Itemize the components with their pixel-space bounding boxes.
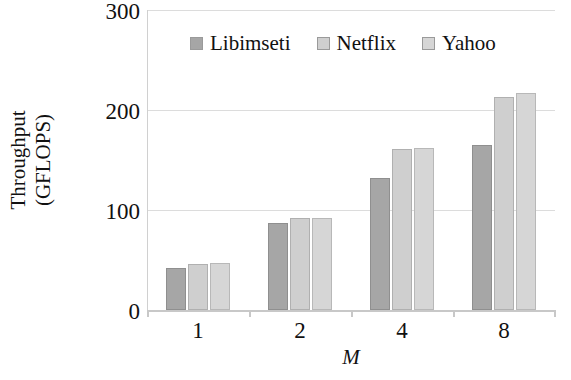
bar-libimseti-m1 [166,268,186,310]
legend-label-libimseti: Libimseti [210,33,291,54]
bar-yahoo-m8 [516,93,536,310]
legend-entry-netflix: Netflix [317,33,396,54]
chart-legend: Libimseti Netflix Yahoo [190,33,496,54]
bar-netflix-m4 [392,149,412,310]
x-tickmark-0 [147,310,149,317]
x-axis-tick-labels: 1 2 4 8 [147,318,555,348]
bar-series-container [147,10,555,310]
y-tick-200: 200 [62,100,140,123]
bar-group-4 [351,10,453,310]
legend-label-netflix: Netflix [337,33,396,54]
legend-entry-yahoo: Yahoo [422,33,496,54]
y-tick-100: 100 [62,200,140,223]
bar-netflix-m2 [290,218,310,310]
bar-group-2 [249,10,351,310]
y-axis-title: Throughput (GFLOPS) [0,0,62,320]
bar-libimseti-m8 [472,145,492,310]
y-axis-tick-labels: 300 200 100 0 [62,0,140,320]
x-tickmark-4 [554,310,556,317]
x-tickmark-1 [249,310,251,317]
bar-group-8 [453,10,555,310]
bar-libimseti-m4 [370,178,390,310]
bar-yahoo-m1 [210,263,230,310]
x-tick-8: 8 [453,318,555,344]
legend-swatch-icon-netflix [317,37,330,50]
legend-swatch-icon-yahoo [422,37,435,50]
x-tick-2: 2 [249,318,351,344]
x-axis-title: M [147,345,555,370]
y-axis-title-line2: (GFLOPS) [31,110,56,209]
x-tick-1: 1 [147,318,249,344]
bar-netflix-m8 [494,97,514,310]
bar-yahoo-m2 [312,218,332,310]
legend-swatch-icon-libimseti [190,37,203,50]
bar-libimseti-m2 [268,223,288,310]
bar-group-1 [147,10,249,310]
bar-yahoo-m4 [414,148,434,310]
y-tick-0: 0 [62,300,140,323]
x-tickmark-3 [453,310,455,317]
x-tickmark-2 [351,310,353,317]
x-tick-4: 4 [351,318,453,344]
y-axis-title-line1: Throughput [6,110,30,209]
bar-netflix-m1 [188,264,208,310]
bar-chart-figure: Throughput (GFLOPS) 300 200 100 0 1 2 4 … [0,0,571,380]
legend-entry-libimseti: Libimseti [190,33,291,54]
legend-label-yahoo: Yahoo [442,33,496,54]
y-tick-300: 300 [62,0,140,23]
